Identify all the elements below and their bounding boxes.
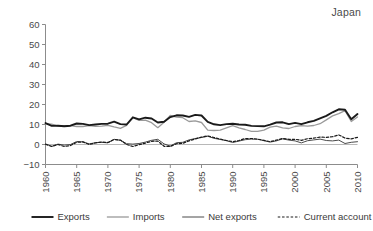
y-axis-tick-label: 20: [29, 99, 40, 110]
x-axis-tick-label: 1970: [102, 172, 113, 193]
x-axis-tick-label: 2000: [289, 172, 300, 193]
x-axis-tick-label: 2010: [352, 172, 363, 193]
y-axis-tick-label: 50: [29, 39, 40, 50]
x-axis: 1960196519701975198019851990199520002005…: [40, 165, 363, 193]
y-axis-tick-label: −10: [23, 159, 39, 170]
x-axis-tick-label: 1960: [40, 172, 51, 193]
y-axis-tick-label: 60: [29, 19, 40, 30]
x-axis-tick-label: 1985: [196, 172, 207, 193]
y-axis-tick-label: 40: [29, 59, 40, 70]
y-axis: −100102030405060: [23, 19, 45, 170]
legend-label-imports: Imports: [133, 211, 165, 222]
x-axis-tick-label: 1965: [71, 172, 82, 193]
legend-label-current-account: Current account: [304, 211, 372, 222]
chart-figure: Japan −100102030405060 19601965197019751…: [0, 0, 373, 231]
line-chart-plot: −100102030405060 19601965197019751980198…: [0, 0, 373, 231]
y-axis-tick-label: 0: [34, 139, 39, 150]
x-axis-tick-label: 2005: [321, 172, 332, 193]
x-axis-tick-label: 1995: [258, 172, 269, 193]
chart-legend: ExportsImportsNet exportsCurrent account: [32, 211, 372, 222]
x-axis-tick-label: 1990: [227, 172, 238, 193]
y-axis-tick-label: 10: [29, 119, 40, 130]
legend-label-net-exports: Net exports: [208, 211, 257, 222]
legend-label-exports: Exports: [58, 211, 90, 222]
series-line-exports: [46, 109, 358, 126]
x-axis-tick-label: 1975: [133, 172, 144, 193]
y-axis-tick-label: 30: [29, 79, 40, 90]
x-axis-tick-label: 1980: [165, 172, 176, 193]
data-series-group: [46, 109, 358, 146]
